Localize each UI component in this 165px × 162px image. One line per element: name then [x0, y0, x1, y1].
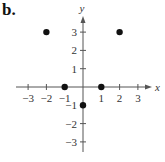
y-tick-label: 2: [72, 44, 78, 56]
y-tick-label: 3: [72, 26, 78, 38]
axes: xy: [16, 2, 160, 152]
data-point: [98, 84, 104, 90]
y-tick-label: 1: [72, 63, 78, 75]
y-tick-label: −1: [65, 99, 77, 111]
y-tick-label: −2: [65, 118, 77, 130]
y-axis-label: y: [79, 2, 85, 14]
data-point: [116, 29, 122, 35]
x-tick-label: 2: [117, 92, 123, 104]
x-tick-label: 3: [135, 92, 141, 104]
y-axis-arrow-icon: [81, 16, 86, 23]
x-tick-label: 1: [99, 92, 105, 104]
x-axis-label: x: [154, 81, 160, 93]
x-tick-label: −3: [22, 92, 34, 104]
scatter-plot: xy −3−2−1123321−1−2−3: [0, 0, 165, 162]
x-axis-arrow-icon: [145, 85, 152, 90]
data-point: [43, 29, 49, 35]
y-tick-label: −3: [65, 136, 77, 148]
data-point: [61, 84, 67, 90]
data-point: [80, 102, 86, 108]
x-tick-label: −2: [41, 92, 53, 104]
